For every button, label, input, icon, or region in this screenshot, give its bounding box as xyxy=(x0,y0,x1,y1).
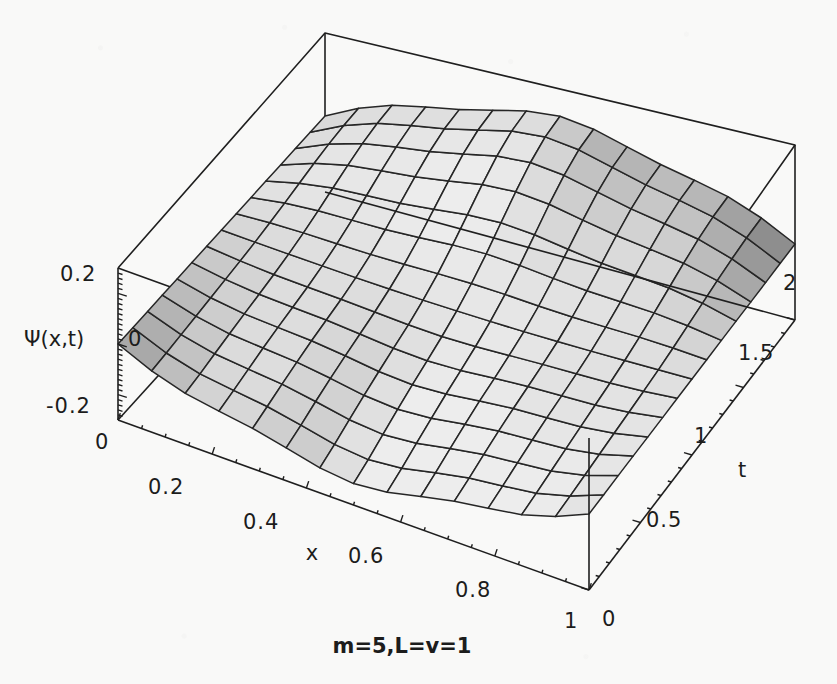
x-minor-tick xyxy=(542,570,543,573)
z-tick-0 xyxy=(118,293,127,296)
t-minor-tick xyxy=(730,400,734,401)
surface-plot-figure: 0 0.2 0.4 0.6 0.8 1 x 0 0.5 1 1.5 2 t 0.… xyxy=(0,0,837,684)
x-minor-tick xyxy=(471,544,472,547)
t-minor-tick xyxy=(781,333,785,334)
t-tick-label-1: 0.5 xyxy=(646,508,682,532)
t-tick-label-4: 2 xyxy=(783,271,797,295)
x-minor-tick xyxy=(566,578,567,581)
t-tick-label-2: 1 xyxy=(694,424,708,448)
x-tick-label-4: 0.8 xyxy=(455,578,491,602)
x-tick-label-1: 0.2 xyxy=(148,475,184,499)
z-tick-label-1: 0 xyxy=(128,327,142,351)
x-minor-tick xyxy=(259,468,260,471)
z-axis-title: Ψ(x,t) xyxy=(24,327,84,351)
t-minor-tick xyxy=(658,495,662,496)
x-tick-label-2: 0.4 xyxy=(243,510,279,534)
t-tick-2 xyxy=(684,453,692,455)
t-minor-tick xyxy=(627,535,631,536)
z-tick-label-0: 0.2 xyxy=(60,262,96,286)
x-tick-1 xyxy=(212,447,214,454)
x-minor-tick xyxy=(283,476,284,479)
x-tick-3 xyxy=(401,515,403,522)
t-minor-tick xyxy=(719,414,723,415)
x-minor-tick xyxy=(377,510,378,513)
surface-mesh xyxy=(118,105,795,516)
plot-caption: m=5,L=v=1 xyxy=(333,634,472,658)
t-minor-tick xyxy=(616,549,620,550)
x-minor-tick xyxy=(165,434,166,437)
t-minor-tick xyxy=(709,427,713,428)
t-tick-label-0: 0 xyxy=(602,607,616,631)
z-tick-2 xyxy=(118,395,127,398)
t-tick-1 xyxy=(633,520,641,522)
t-minor-tick xyxy=(750,373,754,374)
t-minor-tick xyxy=(668,481,672,482)
x-minor-tick xyxy=(330,493,331,496)
x-minor-tick xyxy=(448,536,449,539)
x-tick-label-0: 0 xyxy=(95,430,109,454)
x-minor-tick xyxy=(236,459,237,462)
t-minor-tick xyxy=(606,562,610,563)
t-tick-3 xyxy=(736,385,744,387)
x-tick-2 xyxy=(306,481,308,488)
t-tick-label-3: 1.5 xyxy=(738,341,774,365)
z-tick-label-2: -0.2 xyxy=(46,394,91,418)
x-tick-label-3: 0.6 xyxy=(348,544,384,568)
x-tick-4 xyxy=(495,549,497,556)
x-minor-tick xyxy=(189,442,190,445)
x-tick-label-5: 1 xyxy=(564,609,578,633)
x-minor-tick xyxy=(142,425,143,428)
x-axis-title: x xyxy=(306,541,318,565)
t-axis-title: t xyxy=(738,458,746,482)
x-minor-tick xyxy=(354,502,355,505)
x-minor-tick xyxy=(518,561,519,564)
t-minor-tick xyxy=(678,468,682,469)
surface-plot-canvas: 0 0.2 0.4 0.6 0.8 1 x 0 0.5 1 1.5 2 t 0.… xyxy=(0,0,837,684)
x-minor-tick xyxy=(424,527,425,530)
t-minor-tick xyxy=(596,576,600,577)
